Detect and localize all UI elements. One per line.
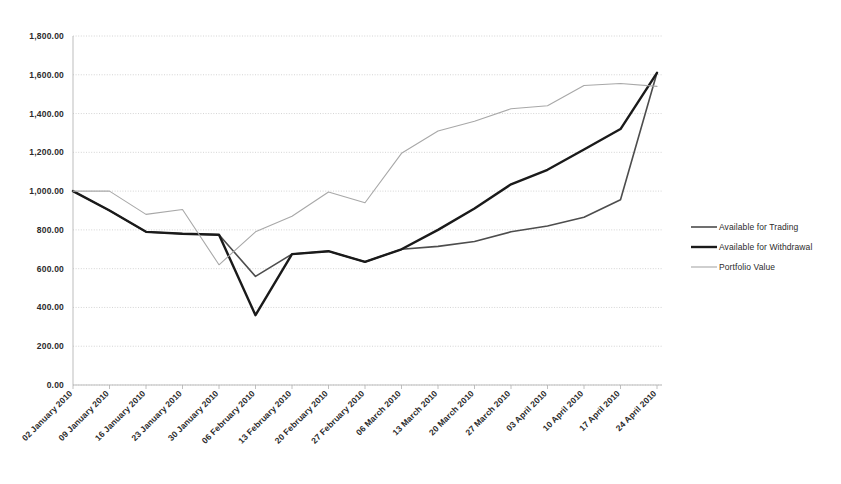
y-axis-tick-label: 1,400.00 (29, 109, 64, 119)
series-line (73, 73, 657, 277)
series-line (73, 73, 657, 315)
legend-label: Available for Trading (719, 222, 799, 232)
legend-item: Portfolio Value (691, 262, 775, 272)
y-axis-tick-label: 1,200.00 (29, 147, 64, 157)
y-axis-tick-label: 0.00 (47, 380, 64, 390)
y-axis-tick-label: 400.00 (37, 302, 64, 312)
legend-item: Available for Trading (691, 222, 799, 232)
y-axis-tick-label: 1,000.00 (29, 186, 64, 196)
x-tick-labels-group: 02 January 201009 January 201016 January… (20, 388, 659, 445)
y-axis-tick-label: 1,800.00 (29, 31, 64, 41)
y-axis-tick-label: 800.00 (37, 225, 64, 235)
y-axis-tick-label: 1,600.00 (29, 70, 64, 80)
series-line (73, 84, 657, 265)
legend-label: Available for Withdrawal (719, 242, 812, 252)
line-chart: 0.00200.00400.00600.00800.001,000.001,20… (0, 0, 841, 484)
legend-item: Available for Withdrawal (691, 242, 812, 252)
y-axis-tick-label: 200.00 (37, 341, 64, 351)
gridlines-group (73, 36, 662, 385)
y-tick-labels-group: 0.00200.00400.00600.00800.001,000.001,20… (29, 31, 64, 390)
x-axis-group (73, 385, 662, 389)
y-axis-tick-label: 600.00 (37, 264, 64, 274)
chart-legend: Available for TradingAvailable for Withd… (691, 222, 812, 272)
series-lines-group (73, 73, 657, 315)
chart-container: 0.00200.00400.00600.00800.001,000.001,20… (0, 0, 841, 484)
legend-label: Portfolio Value (719, 262, 775, 272)
